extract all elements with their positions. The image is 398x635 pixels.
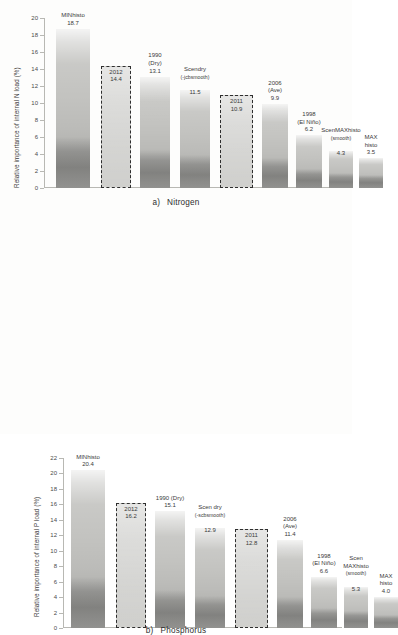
bar-base-band: [296, 169, 322, 188]
panel-nitrogen: Relative importance of internal N load (…: [0, 0, 352, 215]
y-axis-tick: [59, 504, 63, 505]
y-axis-tick-label: 18: [31, 32, 38, 38]
bar-value: 4.3: [321, 150, 360, 158]
bar-label: MINhisto18.7: [61, 12, 85, 27]
bar-base-band: [56, 137, 90, 188]
y-axis-tick-label: 6: [35, 134, 38, 140]
bar-name-line: Scendry: [184, 66, 206, 72]
bar-label: Scendry(-jcbsmooth)11.5: [181, 66, 210, 96]
y-axis-tick-label: 20: [31, 15, 38, 21]
bar-inline-label: 201112.8: [245, 532, 258, 547]
bar-name-line: (Dry): [148, 60, 161, 66]
bar[interactable]: [140, 77, 170, 188]
y-axis-tick-label: 6: [54, 579, 57, 585]
y-axis-tick: [59, 613, 63, 614]
y-axis-tick: [40, 69, 44, 70]
bar-name: 2011: [245, 532, 258, 538]
bar-value: 9.9: [268, 95, 282, 103]
bar[interactable]: [155, 511, 185, 628]
bar-base-band: [180, 155, 210, 188]
bar-label: 2006(Ave)11.4: [283, 516, 297, 539]
bar[interactable]: [101, 66, 131, 188]
bar-value: 3.5: [364, 149, 377, 157]
caption-label-b: b): [146, 626, 154, 635]
y-axis-tick: [40, 171, 44, 172]
bar[interactable]: [195, 528, 225, 628]
y-axis-tick-label: 14: [31, 66, 38, 72]
bar-base-band: [155, 590, 185, 628]
bar-name: 2012: [124, 506, 137, 512]
bar-value: 12.9: [195, 527, 225, 535]
bar-value: 15.1: [156, 502, 184, 510]
y-axis-line: [44, 18, 45, 188]
bar-name-line: Scen dry: [198, 504, 222, 510]
caption-phosphorus: b)Phosphorus: [0, 626, 352, 635]
bar-name-line: histo: [365, 142, 378, 148]
bar[interactable]: [311, 577, 337, 628]
bar-name-line: 2006: [283, 516, 296, 522]
bar-value: 12.8: [246, 540, 258, 546]
bar[interactable]: [374, 597, 398, 628]
y-axis-line: [63, 458, 64, 628]
bar-label: 1998(El Niño)6.6: [312, 553, 335, 576]
bar-name-line: ScenMAXhisto: [321, 127, 360, 133]
bar-label: MINhisto20.4: [76, 454, 100, 469]
bar-inline-label: 201214.4: [109, 69, 122, 84]
bar[interactable]: [116, 503, 146, 628]
y-axis-tick-label: 22: [50, 455, 57, 461]
bar-base-band: [311, 608, 337, 628]
bar[interactable]: [277, 540, 303, 628]
bar-name-line: (smooth): [321, 135, 360, 143]
bar-value: 5.3: [343, 586, 369, 594]
bar-name-line: MINhisto: [76, 454, 100, 460]
bar-value: 6.6: [312, 568, 335, 576]
y-axis-tick: [40, 18, 44, 19]
y-axis-tick-label: 8: [35, 117, 38, 123]
bar-base-band: [140, 150, 170, 188]
y-axis-tick: [59, 566, 63, 567]
bar-base-band: [71, 577, 105, 628]
bar-name-line: (El Niño): [312, 560, 335, 566]
plot-area-nitrogen: 02468101214161820: [44, 18, 342, 188]
y-axis-tick: [59, 582, 63, 583]
y-axis-tick: [59, 551, 63, 552]
bar[interactable]: [296, 135, 322, 188]
bar-value: 14.4: [110, 76, 122, 82]
y-axis-tick: [40, 35, 44, 36]
bar-name-line: 1990: [148, 52, 161, 58]
caption-label-a: a): [152, 198, 160, 207]
y-axis-tick: [40, 154, 44, 155]
bar-label: ScenMAXhisto(smooth)4.3: [321, 127, 360, 157]
y-axis-tick: [40, 120, 44, 121]
bar-label: Scen dry(-scbsmooth)12.9: [195, 504, 225, 534]
bar-base-band: [329, 173, 353, 188]
y-axis-tick-label: 16: [31, 49, 38, 55]
bar-name-line: histo: [380, 580, 393, 586]
y-axis-title-nitrogen: Relative importance of internal N load (…: [13, 67, 20, 188]
bar-name-line: (smooth): [343, 570, 369, 578]
y-axis-tick: [59, 489, 63, 490]
y-axis-tick: [40, 52, 44, 53]
bar-name-line: Scen: [349, 555, 363, 561]
bar[interactable]: [71, 470, 105, 628]
bar-name-line: MAXhisto: [343, 563, 369, 569]
bar-name-line: MINhisto: [61, 12, 85, 18]
y-axis-tick: [59, 520, 63, 521]
y-axis-tick-label: 4: [54, 594, 57, 600]
bar[interactable]: [262, 104, 288, 188]
bar-label: 1990(Dry)13.1: [148, 52, 161, 75]
bar-value: 18.7: [61, 20, 85, 28]
y-axis-tick: [40, 103, 44, 104]
bar-name-line: MAX: [379, 573, 392, 579]
bar-label: ScenMAXhisto(smooth)5.3: [343, 555, 369, 593]
bar[interactable]: [344, 587, 368, 628]
y-axis-tick-label: 12: [31, 83, 38, 89]
bar-label: MAXhisto3.5: [364, 134, 377, 157]
bar[interactable]: [56, 29, 90, 188]
bar-name-line: 1998: [302, 111, 315, 117]
bar[interactable]: [180, 90, 210, 188]
y-axis-tick-label: 8: [54, 563, 57, 569]
y-axis-tick: [59, 458, 63, 459]
bar[interactable]: [359, 158, 383, 188]
bar-label: MAXhisto4.0: [379, 573, 392, 596]
